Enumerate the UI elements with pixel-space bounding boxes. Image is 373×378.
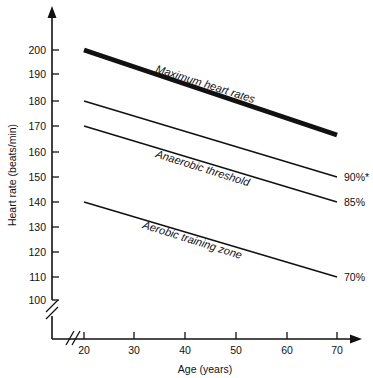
x-tick-label-20: 20: [78, 344, 90, 356]
x-tick-label-50: 50: [230, 344, 242, 356]
y-tick-label-160: 160: [28, 146, 46, 158]
x-axis-title: Age (years): [178, 363, 232, 375]
y-axis-break-mark-1: [46, 300, 58, 312]
y-tick-label-110: 110: [29, 271, 46, 283]
y-tick-group: 200 190 180 170 160 150 140 130 120 110 …: [28, 44, 59, 306]
curve-label-aerobic-training-zone: Aerobic training zone: [140, 218, 243, 261]
chart-svg: 200 190 180 170 160 150 140 130 120 110 …: [0, 0, 373, 378]
y-tick-label-170: 170: [28, 120, 46, 132]
y-tick-label-190: 190: [28, 68, 46, 80]
y-tick-label-150: 150: [28, 171, 46, 183]
x-tick-label-60: 60: [281, 344, 293, 356]
x-tick-label-30: 30: [128, 344, 140, 356]
x-tick-group: 20 30 40 50 60 70: [78, 332, 343, 356]
end-label-70pct: 70%: [344, 271, 365, 283]
series-line-maximum-heart-rates: [84, 50, 337, 135]
end-label-group: 90%* 85% 70%: [344, 171, 369, 283]
curve-label-maximum-heart-rates: Maximum heart rates: [154, 62, 257, 105]
curve-label-anaerobic-threshold: Anaerobic threshold: [153, 147, 252, 188]
x-tick-label-40: 40: [179, 344, 191, 356]
y-tick-label-180: 180: [28, 95, 46, 107]
y-tick-label-130: 130: [28, 221, 46, 233]
curve-label-group: Maximum heart rates Anaerobic threshold …: [140, 62, 257, 261]
end-label-85pct: 85%: [344, 196, 365, 208]
x-tick-label-70: 70: [331, 344, 343, 356]
x-axis-arrow-icon: [350, 335, 362, 344]
y-tick-label-100: 100: [28, 294, 46, 306]
axes-group: [46, 6, 362, 345]
y-axis-title: Heart rate (beats/min): [6, 124, 18, 226]
y-tick-label-140: 140: [28, 196, 46, 208]
end-label-90pct: 90%*: [344, 171, 369, 183]
y-tick-label-120: 120: [28, 246, 46, 258]
y-tick-label-200: 200: [28, 44, 46, 56]
heart-rate-chart: 200 190 180 170 160 150 140 130 120 110 …: [0, 0, 373, 378]
y-axis-arrow-icon: [48, 6, 57, 18]
